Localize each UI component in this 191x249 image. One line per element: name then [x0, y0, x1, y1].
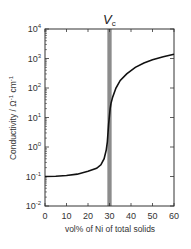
- x-tick-label: 40: [126, 211, 136, 221]
- conductivity-chart: 0102030405060 10-210-1100101102103104 Vc…: [0, 0, 191, 249]
- x-tick-label: 0: [42, 211, 47, 221]
- x-tick-label: 20: [83, 211, 93, 221]
- x-axis-label: vol% of Ni of total solids: [65, 224, 155, 234]
- y-axis-label: Conductivity / Ω-1 cm-1: [8, 75, 18, 160]
- x-tick-label: 10: [61, 211, 71, 221]
- x-tick-label: 50: [147, 211, 157, 221]
- x-tick-label: 60: [169, 211, 179, 221]
- y-tick-label: 101: [28, 112, 42, 123]
- y-axis-ticks: 10-210-1100101102103104: [26, 23, 174, 211]
- y-tick-label: 102: [28, 82, 42, 93]
- x-tick-label: 30: [104, 211, 114, 221]
- y-tick-label: 100: [28, 141, 42, 152]
- y-tick-label: 10-2: [26, 200, 42, 211]
- y-tick-label: 104: [28, 23, 42, 34]
- y-tick-label: 103: [28, 53, 42, 64]
- y-tick-label: 10-1: [26, 171, 42, 182]
- vc-label: Vc: [103, 12, 116, 28]
